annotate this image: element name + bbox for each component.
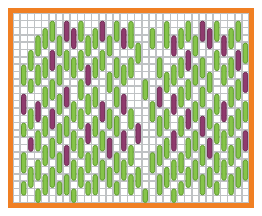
pattern-grid-visualization <box>0 0 262 216</box>
grid-layer <box>13 13 249 203</box>
plot-area <box>13 13 249 203</box>
